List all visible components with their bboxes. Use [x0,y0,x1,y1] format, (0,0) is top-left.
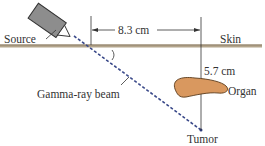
beam-label: Gamma-ray beam [37,89,120,101]
depth-label: 5.7 cm [204,66,235,78]
organ-label: Organ [228,86,257,98]
skin-label: Skin [220,34,241,46]
source-label: Source [4,34,36,46]
distance-label: 8.3 cm [118,25,149,37]
organ-shape [174,77,227,97]
tumor-label: Tumor [187,134,218,146]
angle-arc [112,50,114,60]
